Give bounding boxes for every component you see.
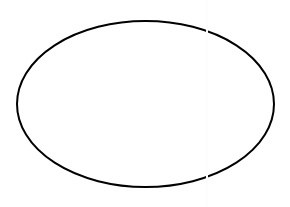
shape-layer xyxy=(0,0,290,207)
ellipse-shape[interactable] xyxy=(17,21,274,187)
drawing-canvas xyxy=(0,0,290,207)
